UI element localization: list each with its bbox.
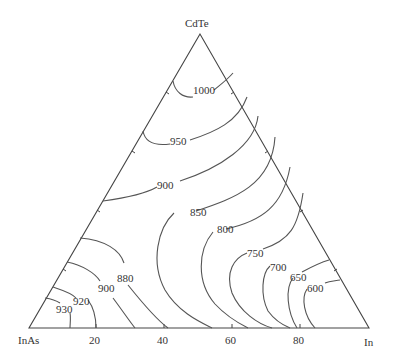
label-850: 850 bbox=[190, 206, 207, 218]
label-900b: 900 bbox=[98, 282, 115, 294]
label-750: 750 bbox=[247, 247, 264, 259]
label-650: 650 bbox=[290, 271, 307, 283]
vertex-label-in: In bbox=[364, 336, 374, 348]
axis-tick-label-80: 80 bbox=[293, 334, 305, 346]
vertex-label-cdte: CdTe bbox=[185, 17, 209, 29]
label-800: 800 bbox=[217, 223, 234, 235]
ternary-diagram: 1000 950 900 850 800 750 700 650 600 880… bbox=[0, 0, 393, 363]
label-950: 950 bbox=[170, 135, 187, 147]
tick-left-1 bbox=[63, 269, 66, 271]
tick-left-4 bbox=[166, 92, 169, 94]
label-1000: 1000 bbox=[193, 84, 216, 96]
contour-800 bbox=[201, 167, 290, 328]
label-600: 600 bbox=[307, 282, 324, 294]
vertex-label-inas: InAs bbox=[18, 334, 39, 346]
label-920: 920 bbox=[73, 295, 90, 307]
axis-tick-label-60: 60 bbox=[225, 334, 237, 346]
contour-700 bbox=[263, 266, 290, 328]
label-700: 700 bbox=[270, 261, 287, 273]
tick-left-3 bbox=[132, 151, 135, 153]
label-900: 900 bbox=[157, 179, 174, 191]
contour-900 bbox=[103, 116, 258, 201]
label-880: 880 bbox=[117, 272, 134, 284]
axis-tick-label-40: 40 bbox=[157, 334, 169, 346]
label-930: 930 bbox=[56, 303, 73, 315]
axis-tick-label-20: 20 bbox=[89, 334, 101, 346]
